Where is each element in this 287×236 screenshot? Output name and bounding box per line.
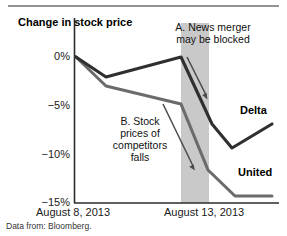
annotation-b-text: B. Stock prices of competitors falls [104, 115, 176, 163]
chart-figure: Change in stock price 0% −5% −10% −15% A… [0, 0, 287, 236]
y-axis-tick-label: −10% [24, 148, 70, 160]
series-label-delta: Delta [240, 104, 267, 116]
annotation-a-text: A. News merger may be blocked [150, 21, 276, 45]
y-axis-tick-label: 0% [24, 50, 70, 62]
chart-title: Change in stock price [18, 16, 96, 29]
y-axis-tick-label: −5% [24, 99, 70, 111]
x-axis-tick-label-end: August 13, 2013 [164, 206, 244, 218]
series-label-united: United [238, 166, 272, 178]
source-note: Data from: Bloomberg. [6, 221, 92, 231]
x-axis-tick-label-start: August 8, 2013 [36, 206, 110, 218]
